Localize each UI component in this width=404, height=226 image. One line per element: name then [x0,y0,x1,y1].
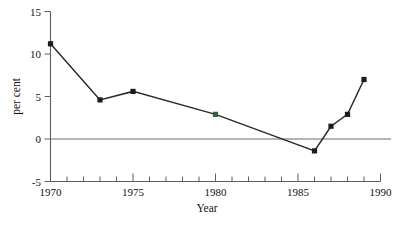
y-axis-title: per cent [10,77,23,115]
x-tick-label-1970: 1970 [40,186,63,198]
x-axis-title: Year [196,202,217,214]
data-point-marker-1987 [328,124,333,129]
y-tick-label-15: 15 [30,6,42,18]
data-point-marker-1986 [312,148,317,153]
x-tick-label-1980: 1980 [205,186,228,198]
x-tick-label-1990: 1990 [370,186,393,198]
x-tick-label-1985: 1985 [287,186,310,198]
data-point-marker-1989 [361,77,366,82]
y-tick-label-10: 10 [30,48,42,60]
y-tick-label-0: 0 [36,133,42,145]
data-point-marker-1973 [97,97,102,102]
data-point-marker-1988 [345,112,350,117]
line-chart-svg: 15 10 5 0 -5 per cent [0,0,404,226]
data-point-marker-1970 [48,41,53,46]
data-point-marker-1975 [130,89,135,94]
x-tick-label-1975: 1975 [122,186,145,198]
data-point-marker-1980 [213,112,218,117]
y-tick-label-5: 5 [36,91,42,103]
chart-figure: 15 10 5 0 -5 per cent [0,0,404,226]
